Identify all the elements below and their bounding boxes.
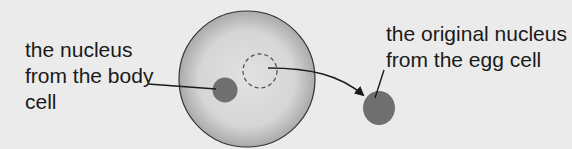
- body-cell-nucleus: [213, 78, 238, 103]
- egg-cell: [179, 11, 315, 147]
- body-nucleus-label: the nucleus from the body cell: [25, 37, 153, 115]
- egg-cell-original-nucleus: [363, 91, 395, 125]
- egg-nucleus-label: the original nucleus from the egg cell: [386, 21, 567, 73]
